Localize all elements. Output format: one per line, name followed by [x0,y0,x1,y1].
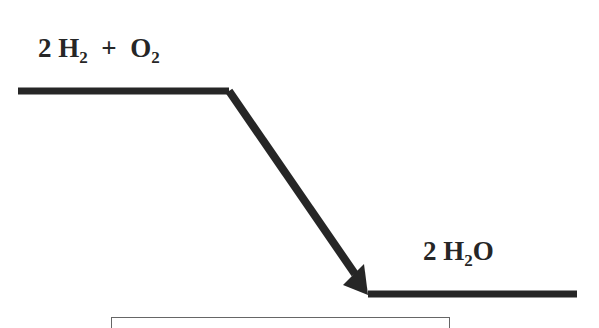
reaction-arrow-shaft [229,91,355,274]
bottom-box-edge [111,317,450,328]
plus-sign: + [101,33,116,63]
water-o-symbol: O [473,236,494,266]
oxygen-symbol: O [130,33,151,63]
oxygen-subscript: 2 [151,48,160,67]
water-h-subscript: 2 [464,251,473,270]
reactant-coefficient: 2 [38,33,52,63]
hydrogen-subscript: 2 [79,48,88,67]
reactants-label: 2 H2 + O2 [38,35,160,62]
products-label: 2 H2O [423,238,494,265]
water-h-symbol: H [443,236,464,266]
product-coefficient: 2 [423,236,437,266]
hydrogen-symbol: H [58,33,79,63]
